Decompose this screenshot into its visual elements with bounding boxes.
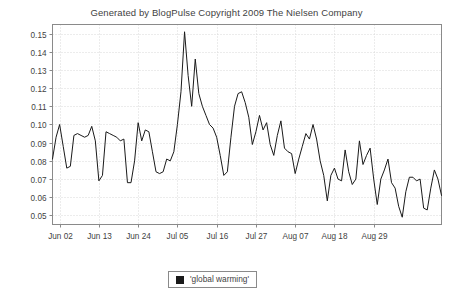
y-tick-label: 0.14 bbox=[31, 49, 47, 58]
y-tick-label: 0.06 bbox=[31, 194, 47, 203]
x-tick-label: Jun 13 bbox=[87, 232, 112, 241]
chart-legend: 'global warming' bbox=[168, 271, 257, 288]
x-tick-label: Jul 27 bbox=[246, 232, 268, 241]
y-axis-tick-labels: 0.050.060.070.080.090.100.110.120.130.14… bbox=[31, 31, 47, 221]
legend-entry-label: 'global warming' bbox=[190, 275, 249, 283]
square-marker-icon bbox=[176, 276, 184, 284]
y-tick-label: 0.07 bbox=[31, 176, 47, 185]
y-tick-label: 0.10 bbox=[31, 121, 47, 130]
chart-container: Generated by BlogPulse Copyright 2009 Th… bbox=[0, 0, 453, 300]
axis-ticks bbox=[50, 35, 375, 228]
x-tick-label: Jul 16 bbox=[207, 232, 229, 241]
y-tick-label: 0.08 bbox=[31, 158, 47, 167]
y-tick-label: 0.12 bbox=[31, 85, 47, 94]
x-axis-tick-labels: Jun 02Jun 13Jun 24Jul 05Jul 16Jul 27Aug … bbox=[48, 232, 388, 241]
x-tick-label: Aug 18 bbox=[322, 232, 348, 241]
y-tick-label: 0.09 bbox=[31, 140, 47, 149]
x-tick-label: Jul 05 bbox=[167, 232, 189, 241]
gridlines bbox=[53, 25, 442, 225]
x-tick-label: Aug 29 bbox=[362, 232, 388, 241]
y-tick-label: 0.11 bbox=[31, 103, 47, 112]
y-tick-label: 0.05 bbox=[31, 212, 47, 221]
chart-plot-area: 0.050.060.070.080.090.100.110.120.130.14… bbox=[0, 0, 453, 300]
y-tick-label: 0.15 bbox=[31, 31, 47, 40]
x-tick-label: Jun 24 bbox=[126, 232, 151, 241]
x-tick-label: Aug 07 bbox=[283, 232, 309, 241]
x-tick-label: Jun 02 bbox=[48, 232, 73, 241]
y-tick-label: 0.13 bbox=[31, 67, 47, 76]
